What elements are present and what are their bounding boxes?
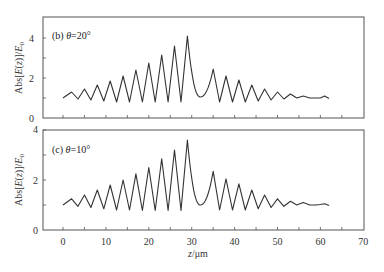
top-panel: (b) θ=20° 0 2 4 Abs[E(z)]/E0 — [13, 17, 364, 124]
top-ytick-4: 4 — [29, 33, 34, 44]
bottom-ylabel: Abs[E(z)]/E0 — [13, 154, 26, 206]
xtick-label: 40 — [230, 236, 240, 247]
xtick-label: 30 — [187, 236, 197, 247]
xtick-label: 70 — [358, 236, 368, 247]
bottom-ytick-2: 2 — [33, 175, 38, 186]
bottom-panel: (c) θ=10° 0 2 4 Abs[E(z)]/E0 01020304050… — [13, 124, 368, 259]
bottom-panel-label: (c) θ=10° — [52, 144, 90, 156]
top-series-line — [63, 36, 329, 102]
chart-figure: (b) θ=20° 0 2 4 Abs[E(z)]/E0 (c) θ=10° 0… — [0, 0, 384, 272]
bottom-series-line — [63, 140, 329, 211]
xtick-label: 60 — [315, 236, 325, 247]
xtick-label: 20 — [144, 236, 154, 247]
xtick-label: 0 — [61, 236, 66, 247]
xlabel: z/μm — [187, 248, 208, 259]
top-panel-label: (b) θ=20° — [52, 30, 91, 42]
xtick-label: 10 — [101, 236, 111, 247]
bottom-ytick-0: 0 — [33, 225, 38, 236]
bottom-xtick-labels: 010203040506070 — [61, 236, 369, 247]
top-ylabel: Abs[E(z)]/E0 — [13, 42, 26, 94]
bottom-plot-frame — [43, 130, 364, 230]
top-ytick-0: 0 — [29, 113, 34, 124]
bottom-ytick-4: 4 — [33, 124, 38, 135]
top-ytick-2: 2 — [29, 73, 34, 84]
xtick-label: 50 — [273, 236, 283, 247]
top-plot-frame — [43, 17, 364, 118]
